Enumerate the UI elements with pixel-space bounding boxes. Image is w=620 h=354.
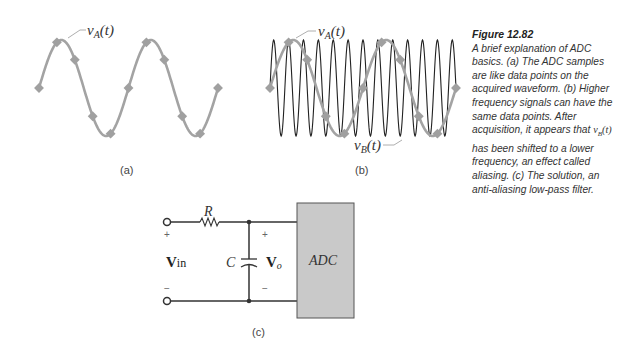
capacitor-label: C: [226, 255, 236, 270]
sample-points-a: [34, 37, 223, 138]
va-label-leader: [68, 30, 80, 38]
vb-label: vB(t): [354, 137, 381, 155]
sample-point: [88, 111, 98, 121]
va-label: vA(t): [87, 22, 114, 40]
va-label-leader-b: [296, 31, 308, 38]
va-label-b: vA(t): [318, 23, 345, 41]
sample-point: [159, 55, 169, 65]
vo-plus: +: [262, 229, 268, 240]
input-terminal-bottom: [164, 298, 171, 305]
sample-point: [213, 83, 223, 93]
figure-number: Figure 12.82: [472, 28, 620, 42]
sample-point: [265, 83, 275, 93]
figure-caption: Figure 12.82 A brief explanation of ADC …: [472, 28, 620, 196]
panel-a-label: (a): [120, 164, 133, 176]
sample-point: [70, 55, 80, 65]
sample-point: [395, 55, 405, 65]
panel-a: vA(t): [34, 22, 223, 139]
vo-minus: −: [262, 283, 268, 294]
panel-c-label: (c): [252, 326, 265, 338]
resistor-label: R: [203, 204, 213, 219]
panel-b: vA(t) vB(t): [265, 23, 461, 155]
vin-label: Vin: [166, 254, 186, 270]
sample-point: [177, 111, 187, 121]
sample-point: [321, 111, 331, 121]
sample-point: [34, 83, 44, 93]
vin-minus: −: [164, 283, 170, 294]
sample-point: [414, 111, 424, 121]
input-terminal-top: [164, 219, 171, 226]
sample-point: [302, 55, 312, 65]
sample-point: [124, 83, 134, 93]
vb-label-leader: [394, 140, 402, 145]
panel-b-label: (b): [355, 164, 368, 176]
resistor: [200, 218, 219, 226]
caption-text: A brief explanation of ADC basics. (a) T…: [472, 43, 612, 195]
vo-label: Vo: [266, 254, 282, 271]
caption-var: vB(t): [593, 124, 611, 135]
sample-point: [451, 83, 461, 93]
adc-label: ADC: [308, 253, 338, 268]
vin-plus: +: [164, 229, 170, 240]
